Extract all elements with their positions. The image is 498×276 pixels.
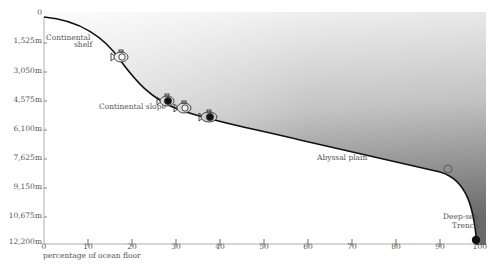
- x-axis-label: 10: [78, 242, 98, 251]
- x-axis-label: 60: [298, 242, 318, 251]
- y-axis-label: 10,675m: [0, 211, 42, 220]
- y-axis-ticks: [44, 43, 47, 217]
- label-deep-sea-trench-line2: Trench: [452, 221, 479, 230]
- x-axis-title: percentage of ocean floor: [43, 251, 141, 260]
- y-axis-label: 1,525m: [0, 36, 42, 45]
- y-axis-label: 6,100m: [0, 124, 42, 133]
- x-axis-label: 70: [342, 242, 362, 251]
- y-axis-label: 7,625m: [0, 153, 42, 162]
- label-abyssal-plain: Abyssal plain: [317, 153, 367, 162]
- label-continental-slope: Continental slope: [99, 102, 166, 111]
- y-axis-label: 3,050m: [0, 66, 42, 75]
- x-axis-label: 30: [166, 242, 186, 251]
- label-deep-sea-trench-line1: Deep-sea: [443, 212, 478, 221]
- y-axis-label: 9,150m: [0, 182, 42, 191]
- x-axis-label: 80: [386, 242, 406, 251]
- x-axis-label: 90: [430, 242, 450, 251]
- x-axis-label: 0: [34, 242, 54, 251]
- x-axis-label: 100: [470, 242, 490, 251]
- x-axis-label: 50: [254, 242, 274, 251]
- y-axis-label: 4,575m: [0, 95, 42, 104]
- label-continental-shelf-line2: shelf: [74, 40, 92, 49]
- y-axis-label: 0: [0, 8, 42, 17]
- x-axis-label: 40: [210, 242, 230, 251]
- x-axis-label: 20: [122, 242, 142, 251]
